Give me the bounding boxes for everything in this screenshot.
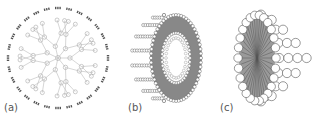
- liposome-diagram: [110, 0, 215, 125]
- panel-c: (c): [215, 0, 323, 125]
- panel-b: (b): [110, 0, 215, 125]
- panel-a: (a): [0, 0, 110, 125]
- panel-b-label: (b): [128, 102, 142, 113]
- panel-c-label: (c): [220, 102, 233, 113]
- panel-a-label: (a): [4, 102, 18, 113]
